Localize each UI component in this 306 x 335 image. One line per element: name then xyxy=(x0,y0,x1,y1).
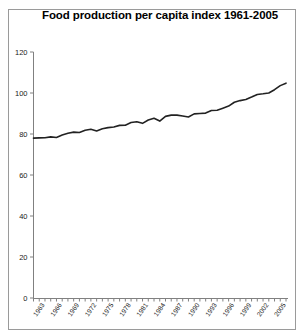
x-tick-label: 1969 xyxy=(66,301,80,317)
x-axis-labels: 1963196619691972197519781981198419871990… xyxy=(32,301,287,317)
y-tick-label: 80 xyxy=(19,130,27,139)
x-tick-label: 1966 xyxy=(49,301,63,317)
y-tick-label: 100 xyxy=(15,89,28,98)
x-tick-label: 1993 xyxy=(204,301,218,317)
y-axis-ticks xyxy=(30,52,34,298)
y-tick-label: 120 xyxy=(15,48,28,57)
x-tick-label: 1984 xyxy=(152,301,166,317)
y-axis-labels: 020406080100120 xyxy=(15,48,28,303)
data-series-line xyxy=(34,83,287,138)
y-tick-label: 60 xyxy=(19,171,27,180)
x-tick-label: 1981 xyxy=(135,301,149,317)
chart-plot-area: 020406080100120 196319661969197219751978… xyxy=(0,0,306,335)
x-tick-label: 1975 xyxy=(101,301,115,317)
x-tick-label: 2002 xyxy=(255,301,269,317)
chart-svg: 020406080100120 196319661969197219751978… xyxy=(0,0,306,335)
y-tick-label: 20 xyxy=(19,253,27,262)
x-tick-label: 1972 xyxy=(83,301,97,317)
x-tick-label: 1999 xyxy=(238,301,252,317)
y-tick-label: 40 xyxy=(19,212,27,221)
y-tick-label: 0 xyxy=(23,294,27,303)
x-tick-label: 1990 xyxy=(187,301,201,317)
x-tick-label: 2005 xyxy=(273,301,287,317)
x-tick-label: 1996 xyxy=(221,301,235,317)
x-tick-label: 1963 xyxy=(32,301,46,317)
x-tick-label: 1987 xyxy=(169,301,183,317)
x-tick-label: 1978 xyxy=(118,301,132,317)
